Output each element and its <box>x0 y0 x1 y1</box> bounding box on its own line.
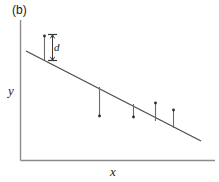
data-point <box>154 102 157 105</box>
data-point <box>98 115 101 118</box>
residual-group-1 <box>43 35 46 60</box>
x-axis-label: x <box>109 164 116 179</box>
fit-line-group <box>26 51 201 141</box>
deviation-annotation: d <box>48 35 60 61</box>
residual-plot-figure: d (b) y x <box>0 0 219 182</box>
data-point <box>172 109 175 112</box>
deviation-label: d <box>54 41 60 53</box>
data-point <box>43 35 46 38</box>
axes-group <box>21 20 216 161</box>
figure-container: d (b) y x <box>0 0 219 182</box>
data-point <box>132 116 135 119</box>
best-fit-line <box>26 51 201 141</box>
panel-label: (b) <box>12 3 27 17</box>
residual-group-5 <box>172 109 175 128</box>
residual-group-2 <box>98 87 101 117</box>
y-axis-label: y <box>6 83 14 98</box>
